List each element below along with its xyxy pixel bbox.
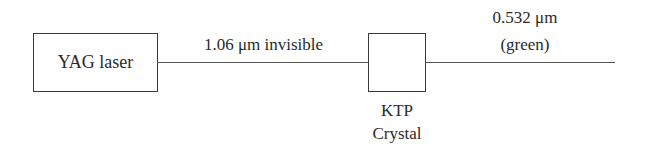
beam-line-infrared [157, 62, 369, 63]
ktp-crystal-box [368, 33, 426, 92]
beam-line-green [425, 62, 615, 63]
yag-laser-box: YAG laser [33, 33, 158, 92]
ktp-caption-line2: Crystal [357, 124, 437, 144]
green-wavelength-label: 0.532 μm [470, 8, 580, 28]
green-color-label: (green) [470, 35, 580, 55]
ktp-caption-line1: KTP [357, 101, 437, 121]
yag-laser-label: YAG laser [34, 52, 157, 72]
infrared-beam-label: 1.06 μm invisible [186, 35, 341, 55]
